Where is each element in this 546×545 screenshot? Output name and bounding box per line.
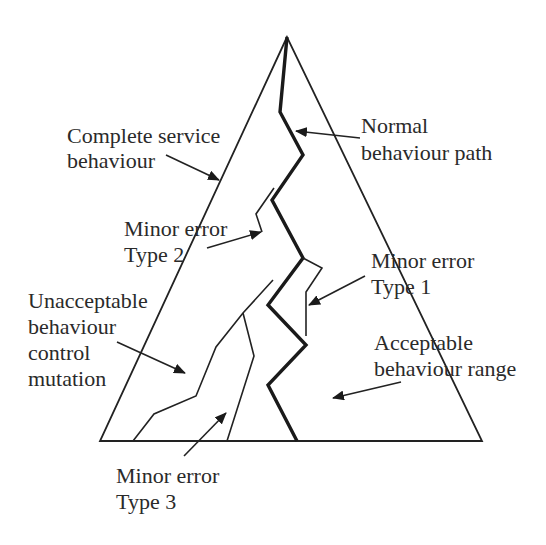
acceptable-label-line2: behaviour range — [374, 356, 516, 381]
minor-error-type2-label-line1: Minor error — [124, 216, 228, 241]
unacceptable-label-line4: mutation — [28, 366, 106, 391]
minor-error-type1-label-line1: Minor error — [371, 248, 475, 273]
minor-error-type2-label-line2: Type 2 — [124, 242, 184, 267]
normal-behaviour-path — [268, 37, 306, 441]
unacceptable-label-line2: behaviour — [28, 314, 117, 339]
minor-error-type1-path — [303, 258, 322, 336]
unacceptable-label-line1: Unacceptable — [28, 288, 148, 313]
minor-error-type3-label-line1: Minor error — [116, 463, 220, 488]
normal-path-label: Normal behaviour path — [361, 113, 492, 165]
minor-error-type3-label: Minor error Type 3 — [116, 463, 225, 514]
normal-path-arrow — [296, 131, 360, 138]
minor-error-type3-arrow — [184, 413, 226, 456]
minor-error-type3-label-line2: Type 3 — [116, 489, 176, 514]
minor-error-type3-path — [227, 313, 254, 441]
unacceptable-arrow — [117, 342, 185, 373]
minor-error-type1-label-line2: Type 1 — [371, 274, 431, 299]
minor-error-type2-label: Minor error Type 2 — [124, 216, 233, 267]
acceptable-arrow — [333, 382, 401, 398]
acceptable-label: Acceptable behaviour range — [374, 330, 516, 381]
normal-path-label-line1: Normal — [361, 113, 428, 138]
unacceptable-label: Unacceptable behaviour control mutation — [28, 288, 153, 391]
acceptable-label-line1: Acceptable — [374, 330, 473, 355]
complete-service-arrow — [166, 155, 219, 180]
unacceptable-label-line3: control — [28, 340, 90, 365]
minor-error-type1-label: Minor error Type 1 — [371, 248, 480, 299]
complete-service-label-line2: behaviour — [67, 148, 156, 173]
behaviour-triangle-diagram: Complete service behaviour Normal behavi… — [0, 0, 546, 545]
normal-path-label-line2: behaviour path — [361, 140, 492, 165]
complete-service-label-line1: Complete service — [67, 123, 220, 148]
minor-error-type2-path — [256, 188, 274, 232]
minor-error-type1-arrow — [309, 276, 365, 305]
complete-service-label: Complete service behaviour — [67, 123, 226, 173]
